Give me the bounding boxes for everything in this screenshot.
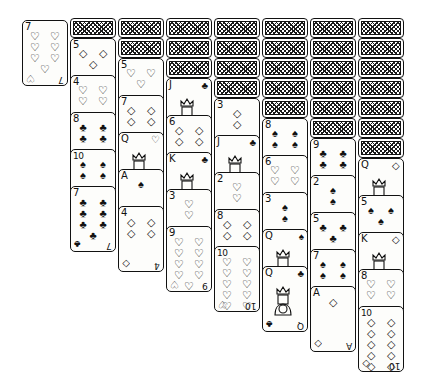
pip-diamonds: ◇ (192, 136, 206, 147)
facedown-card[interactable] (358, 78, 404, 98)
card-10-diamonds[interactable]: 10◇◇◇◇◇◇◇◇◇◇10◇ (358, 306, 404, 372)
corner-suit-inverted-hearts: ♡ (218, 299, 227, 309)
card-rank: Q (121, 133, 128, 145)
facedown-card[interactable] (310, 58, 356, 78)
pip-hearts: ♡ (384, 290, 398, 301)
card-4-diamonds[interactable]: 4◇◇◇◇4◇ (118, 206, 164, 272)
pip-clubs: ♣ (326, 233, 340, 244)
facedown-card[interactable] (262, 18, 308, 38)
pip-spades: ♠ (364, 205, 378, 216)
facedown-card[interactable] (166, 58, 212, 78)
card-back-pattern (73, 21, 113, 35)
pip-spades: ♠ (288, 139, 302, 150)
card-7-hearts[interactable]: 7♡♡♡♡♡♡♡7♡ (22, 20, 68, 86)
pip-diamonds: ◇ (144, 116, 158, 127)
card-back-pattern (121, 41, 161, 55)
pip-clubs: ♣ (316, 159, 330, 170)
pip-hearts: ♡ (144, 68, 158, 79)
facedown-card[interactable] (118, 38, 164, 58)
card-back-pattern (169, 61, 209, 75)
pip-diamonds: ◇ (124, 116, 138, 127)
pip-hearts: ♡ (96, 96, 110, 107)
facedown-card[interactable] (70, 18, 116, 38)
pip-spades: ♠ (76, 170, 90, 181)
pip-diamonds: ◇ (172, 136, 186, 147)
corner-suit-clubs: ♣ (201, 155, 208, 165)
pip-spades: ♠ (336, 270, 350, 281)
facedown-card[interactable] (166, 18, 212, 38)
facedown-card[interactable] (358, 58, 404, 78)
facedown-card[interactable] (358, 118, 404, 138)
corner-suit-inverted-clubs: ♣ (74, 239, 81, 249)
facedown-card[interactable] (310, 38, 356, 58)
facedown-card[interactable] (214, 58, 260, 78)
facedown-card[interactable] (118, 18, 164, 38)
pip-diamonds: ◇ (240, 230, 254, 241)
card-back-pattern (265, 21, 305, 35)
card-rank-inverted: 9 (202, 280, 208, 291)
card-7-clubs[interactable]: 7♣♣♣♣♣♣♣7♣ (70, 186, 116, 252)
facedown-card[interactable] (310, 78, 356, 98)
pip-diamonds: ◇ (86, 59, 100, 70)
pip-hearts: ♡ (48, 53, 62, 64)
card-rank: K (361, 233, 367, 245)
card-A-diamonds[interactable]: A◇A◇ (310, 286, 356, 352)
facedown-card[interactable] (358, 98, 404, 118)
card-back-pattern (217, 61, 257, 75)
pip-diamonds: ◇ (76, 48, 90, 59)
pip-diamonds: ◇ (96, 48, 110, 59)
card-rank: J (169, 79, 171, 91)
facedown-card[interactable] (310, 98, 356, 118)
pip-clubs: ♣ (96, 133, 110, 144)
card-back-pattern (361, 101, 401, 115)
facedown-card[interactable] (214, 78, 260, 98)
corner-suit-clubs: ♣ (249, 138, 256, 148)
facedown-card[interactable] (214, 18, 260, 38)
card-back-pattern (313, 61, 353, 75)
pip-hearts: ♡ (268, 176, 282, 187)
facedown-card[interactable] (262, 58, 308, 78)
facedown-card[interactable] (310, 18, 356, 38)
card-back-pattern (361, 61, 401, 75)
pip-spades: ♠ (374, 216, 388, 227)
pip-hearts: ♡ (134, 79, 148, 90)
card-Q-clubs[interactable]: Q♣Q♣ (262, 266, 308, 332)
card-rank: Q (265, 230, 272, 242)
pip-clubs: ♣ (336, 222, 350, 233)
pip-spades: ♠ (316, 270, 330, 281)
pip-clubs: ♣ (316, 222, 330, 233)
corner-suit-spades: ♠ (299, 232, 304, 242)
pip-spades: ♠ (326, 196, 340, 207)
facedown-card[interactable] (214, 38, 260, 58)
pip-hearts: ♡ (76, 96, 90, 107)
facedown-card[interactable] (262, 78, 308, 98)
facedown-card[interactable] (166, 38, 212, 58)
card-rank-inverted: Q (297, 320, 304, 331)
pip-spades: ♠ (278, 213, 292, 224)
facedown-card[interactable] (262, 38, 308, 58)
pip-clubs: ♣ (76, 133, 90, 144)
facedown-card[interactable] (358, 38, 404, 58)
corner-suit-inverted-diamonds: ◇ (314, 339, 322, 349)
card-10-hearts[interactable]: 10♡♡♡♡♡♡♡♡♡♡10♡ (214, 246, 260, 312)
corner-suit-clubs: ♣ (297, 269, 304, 279)
facedown-card[interactable] (262, 98, 308, 118)
pip-clubs: ♣ (76, 219, 90, 230)
facedown-card[interactable] (358, 138, 404, 158)
card-rank: K (169, 153, 175, 165)
card-back-pattern (169, 41, 209, 55)
pip-hearts: ♡ (364, 290, 378, 301)
facedown-card[interactable] (310, 118, 356, 138)
card-rank-inverted: 10 (389, 360, 400, 371)
card-back-pattern (361, 141, 401, 155)
pip-hearts: ♡ (38, 64, 52, 75)
corner-suit-inverted-clubs: ♣ (266, 319, 273, 329)
card-back-pattern (265, 41, 305, 55)
card-9-hearts[interactable]: 9♡♡♡♡♡♡♡♡♡9♡ (166, 226, 212, 292)
card-back-pattern (313, 101, 353, 115)
pip-spades: ♠ (268, 139, 282, 150)
corner-suit-inverted-hearts: ♡ (26, 73, 35, 83)
facedown-card[interactable] (358, 18, 404, 38)
card-back-pattern (121, 21, 161, 35)
